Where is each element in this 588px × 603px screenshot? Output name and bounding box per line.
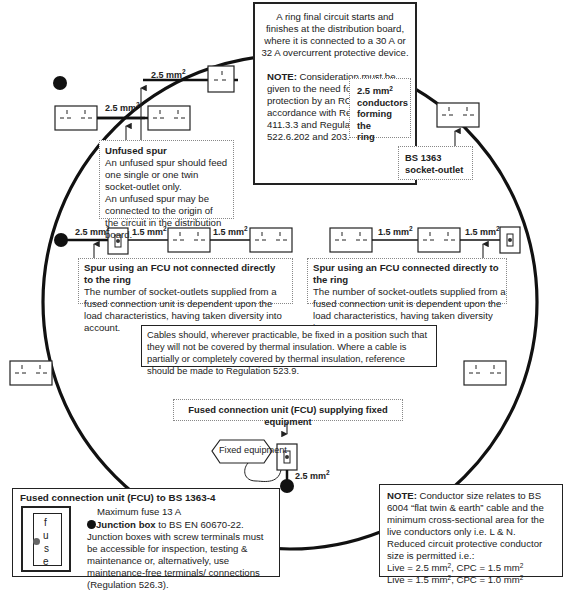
cable-label-left-socket-socket: 1.5 mm2 — [213, 227, 248, 237]
cable-label-right-socket-socket: 1.5 mm2 — [378, 227, 413, 237]
fuse-dot-icon — [33, 538, 40, 545]
junction-box-legend: Junction box to BS EN 60670-22. Junction… — [87, 519, 275, 591]
cable-label-bottom-fcu: 2.5 mm2 — [295, 471, 330, 481]
unfused-spur-note: Unfused spur An unfused spur should feed… — [99, 140, 234, 219]
cable-label-right-socket-fcu: 1.5 mm2 — [465, 227, 500, 237]
junction-dot-icon — [87, 520, 96, 529]
legend-title: Fused connection unit (FCU) to BS 1363-4 — [20, 492, 272, 504]
spur-fcu-not-connected-note: Spur using an FCU not connected directly… — [78, 258, 293, 304]
ring-conductors-label: 2.5 mm2 conductors forming the ring — [349, 78, 411, 138]
max-fuse-text: Maximum fuse 13 A — [97, 506, 181, 518]
ring-circuit-description: A ring final circuit starts and finishes… — [261, 11, 409, 59]
fcu-fixed-equipment-label: Fused connection unit (FCU) supplying fi… — [173, 399, 403, 421]
junction-box-bottom — [280, 479, 294, 493]
thermal-insulation-note: Cables should, wherever practicable, be … — [141, 325, 437, 367]
fuse-symbol: f u s e — [21, 506, 71, 572]
socket-outlet-label: BS 1363 socket-outlet — [398, 146, 473, 180]
cable-label-top-spur-lower: 2.5 mm2 — [105, 103, 140, 113]
conductor-size-note: NOTE: Conductor size relates to BS 6004 … — [379, 484, 563, 577]
cable-label-left-fcu-socket: 1.5 mm2 — [132, 227, 167, 237]
fixed-equipment-label: Fixed equipment — [219, 445, 287, 455]
junction-box-top — [53, 76, 67, 90]
cable-label-left-ring-fcu: 2.5 mm2 — [75, 227, 110, 237]
cable-label-top-spur-upper: 2.5 mm2 — [151, 70, 186, 80]
legend-box: Fused connection unit (FCU) to BS 1363-4… — [12, 488, 280, 577]
spur-fcu-connected-note: Spur using an FCU connected directly to … — [307, 258, 507, 304]
